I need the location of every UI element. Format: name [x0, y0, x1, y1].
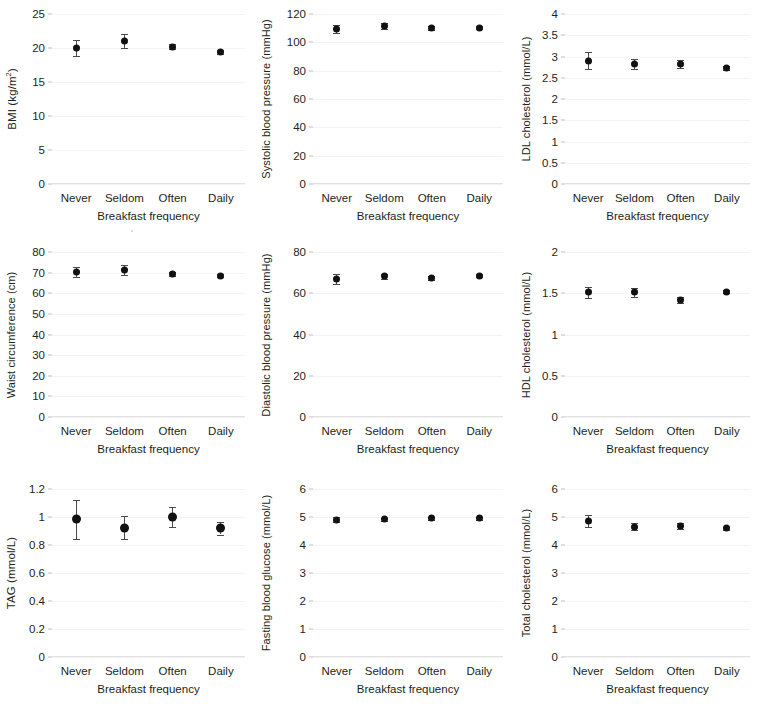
x-tick-label: Seldom — [100, 665, 148, 677]
gridline — [565, 545, 750, 546]
y-tick-label: 1 — [300, 623, 306, 635]
x-axis-line — [313, 416, 503, 417]
y-tick-label: 60 — [293, 93, 306, 105]
y-tick-mark — [561, 162, 565, 163]
y-tick-mark — [309, 293, 313, 294]
gridline — [52, 573, 245, 574]
data-marker — [121, 266, 128, 273]
x-axis-title: Breakfast frequency — [313, 210, 503, 222]
y-tick-label: 0 — [300, 178, 306, 190]
y-tick-mark — [561, 293, 565, 294]
y-tick-mark — [561, 141, 565, 142]
data-point — [431, 489, 432, 657]
x-axis-title: Breakfast frequency — [52, 210, 245, 222]
x-tick-label: Often — [658, 665, 704, 677]
data-marker — [476, 515, 483, 522]
plot-area — [565, 252, 750, 417]
x-tick-label: Daily — [197, 425, 245, 437]
error-bar-cap-lower — [333, 284, 340, 285]
error-bar-cap-lower — [217, 535, 224, 536]
gridline — [313, 489, 503, 490]
y-tick-label: 1.2 — [29, 483, 45, 495]
gridline — [313, 14, 503, 15]
y-tick-label: 0 — [552, 411, 558, 423]
y-tick-mark — [309, 42, 313, 43]
y-tick-label: 10 — [32, 110, 45, 122]
x-tick-label: Often — [408, 192, 456, 204]
chart-panel-7: TAG (mmol/L)00.20.40.60.811.2NeverSeldom… — [0, 475, 255, 713]
gridline — [313, 573, 503, 574]
data-point — [384, 14, 385, 184]
y-tick-label: 100 — [287, 36, 306, 48]
data-point — [172, 252, 173, 417]
y-tick-label: 30 — [32, 349, 45, 361]
data-point — [172, 14, 173, 184]
y-tick-mark — [48, 116, 52, 117]
gridline — [565, 517, 750, 518]
y-tick-label: 0 — [39, 178, 45, 190]
data-point — [431, 252, 432, 417]
gridline — [313, 376, 503, 377]
gridline — [52, 489, 245, 490]
data-point — [76, 14, 77, 184]
error-bar-cap-lower — [121, 48, 128, 49]
x-axis-line — [565, 416, 750, 417]
y-tick-label: 4 — [300, 539, 306, 551]
y-tick-mark — [48, 375, 52, 376]
y-tick-label: 40 — [293, 329, 306, 341]
error-bar-cap-lower — [333, 33, 340, 34]
gridline — [313, 545, 503, 546]
gridline — [565, 489, 750, 490]
x-axis-title: Breakfast frequency — [565, 683, 750, 695]
data-point — [680, 14, 681, 184]
x-tick-label: Seldom — [361, 192, 409, 204]
gridline — [52, 150, 245, 151]
x-tick-label: Often — [149, 425, 197, 437]
gridline — [52, 14, 245, 15]
error-bar-cap-lower — [121, 275, 128, 276]
x-axis-title: Breakfast frequency — [313, 683, 503, 695]
plot-area — [313, 252, 503, 417]
data-marker — [428, 275, 435, 282]
data-marker — [723, 64, 730, 71]
data-marker — [476, 24, 483, 31]
data-point — [384, 252, 385, 417]
y-tick-label: 2 — [300, 595, 306, 607]
y-tick-label: 3.5 — [542, 29, 558, 41]
data-marker — [216, 524, 225, 533]
y-tick-mark — [48, 601, 52, 602]
y-tick-mark — [561, 252, 565, 253]
gridline — [565, 14, 750, 15]
y-tick-mark — [309, 252, 313, 253]
x-axis-line — [52, 183, 245, 184]
x-axis-tick-labels: NeverSeldomOftenDaily — [313, 425, 503, 437]
y-tick-label: 2 — [552, 246, 558, 258]
data-marker — [217, 272, 224, 279]
error-bar-cap-lower — [631, 530, 638, 531]
y-tick-mark — [561, 14, 565, 15]
data-point — [726, 252, 727, 417]
data-point — [76, 489, 77, 657]
data-point — [76, 252, 77, 417]
y-tick-label: 0 — [39, 651, 45, 663]
data-point — [479, 489, 480, 657]
data-marker — [723, 525, 730, 532]
y-tick-label: 5 — [39, 144, 45, 156]
data-point — [726, 14, 727, 184]
y-tick-label: 1 — [39, 511, 45, 523]
data-marker — [428, 515, 435, 522]
gridline — [52, 396, 245, 397]
y-tick-label: 2 — [552, 93, 558, 105]
data-marker — [631, 61, 638, 68]
y-tick-label: 60 — [32, 287, 45, 299]
x-tick-label: Daily — [456, 665, 504, 677]
y-tick-label: 4 — [552, 8, 558, 20]
x-tick-label: Often — [149, 192, 197, 204]
y-tick-label: 1 — [552, 623, 558, 635]
gridline — [313, 99, 503, 100]
data-marker — [217, 49, 224, 56]
y-tick-label: 1 — [552, 329, 558, 341]
error-bar-cap-lower — [585, 527, 592, 528]
x-axis-tick-labels: NeverSeldomOftenDaily — [565, 192, 750, 204]
gridline — [52, 376, 245, 377]
